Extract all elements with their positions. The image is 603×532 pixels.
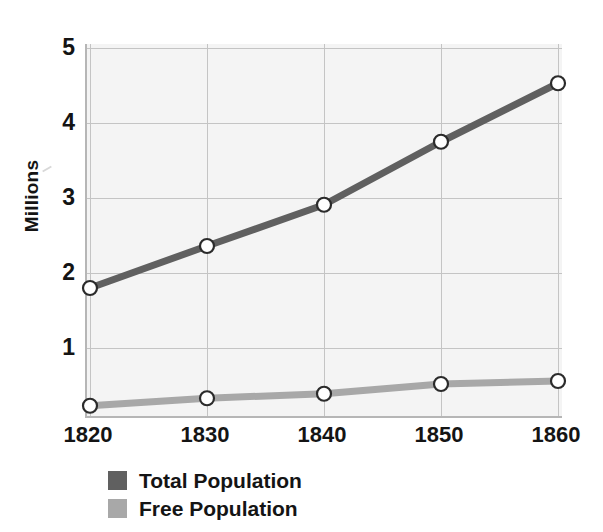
plot-area: [85, 44, 562, 418]
y-axis-tick-label: 2: [35, 261, 75, 284]
data-point-marker[interactable]: [317, 387, 331, 401]
y-axis-tick-label: 1: [35, 336, 75, 359]
data-point-marker[interactable]: [200, 239, 214, 253]
y-axis-tick-label: 4: [35, 111, 75, 134]
y-axis-tick-label: 5: [35, 36, 75, 59]
data-point-marker[interactable]: [434, 377, 448, 391]
legend-item-label: Total Population: [139, 470, 302, 491]
x-axis-tick-label: 1830: [155, 424, 255, 446]
chart-legend: Total PopulationFree Population: [108, 466, 438, 522]
x-axis-tick-labels: 18201830184018501860: [0, 424, 603, 458]
data-point-marker[interactable]: [83, 399, 97, 413]
x-axis-tick-label: 1840: [272, 424, 372, 446]
data-point-marker[interactable]: [317, 198, 331, 212]
data-point-marker[interactable]: [551, 76, 565, 90]
chart-series-layer: [87, 44, 564, 418]
x-axis-tick-label: 1850: [389, 424, 489, 446]
legend-item-free-population[interactable]: Free Population: [108, 494, 438, 522]
series-line-total-population: [90, 83, 558, 288]
y-axis-tick-label: 3: [35, 186, 75, 209]
legend-item-total-population[interactable]: Total Population: [108, 466, 438, 494]
legend-swatch-icon: [108, 499, 127, 518]
data-point-marker[interactable]: [434, 135, 448, 149]
x-axis-tick-label: 1860: [506, 424, 603, 446]
data-point-marker[interactable]: [200, 391, 214, 405]
data-point-marker[interactable]: [83, 281, 97, 295]
x-axis-tick-label: 1820: [38, 424, 138, 446]
legend-item-label: Free Population: [139, 498, 298, 519]
data-point-marker[interactable]: [551, 374, 565, 388]
legend-swatch-icon: [108, 471, 127, 490]
line-chart-figure: Millions 54321 18201830184018501860 Tota…: [0, 0, 603, 532]
